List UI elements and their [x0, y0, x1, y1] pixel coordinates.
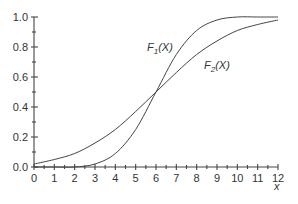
x-tick-label: 11 — [252, 172, 263, 184]
curves — [34, 17, 278, 167]
f1-label: F1(X) — [147, 41, 173, 56]
f2-curve — [34, 20, 278, 164]
axes: 01234567891011120.00.20.40.60.81.0 — [13, 11, 284, 184]
x-tick-label: 10 — [231, 172, 243, 184]
x-tick-label: 2 — [72, 172, 78, 184]
x-tick-label: 8 — [194, 172, 200, 184]
y-tick-label: 0.6 — [13, 71, 28, 83]
cdf-chart: 01234567891011120.00.20.40.60.81.0 F1(X)… — [0, 0, 298, 204]
y-tick-label: 0.2 — [13, 131, 28, 143]
x-tick-label: 7 — [173, 172, 179, 184]
x-tick-label: 4 — [112, 172, 118, 184]
x-tick-label: 0 — [31, 172, 37, 184]
f2-label: F2(X) — [204, 59, 230, 74]
x-tick-label: 9 — [214, 172, 220, 184]
x-tick-label: 5 — [133, 172, 139, 184]
y-tick-label: 1.0 — [13, 11, 28, 23]
x-tick-label: 3 — [92, 172, 98, 184]
y-tick-label: 0.4 — [13, 101, 28, 113]
x-axis-label: x — [273, 180, 280, 192]
y-tick-label: 0.0 — [13, 161, 28, 173]
x-tick-label: 1 — [51, 172, 57, 184]
x-tick-label: 6 — [153, 172, 159, 184]
y-tick-label: 0.8 — [13, 41, 28, 53]
